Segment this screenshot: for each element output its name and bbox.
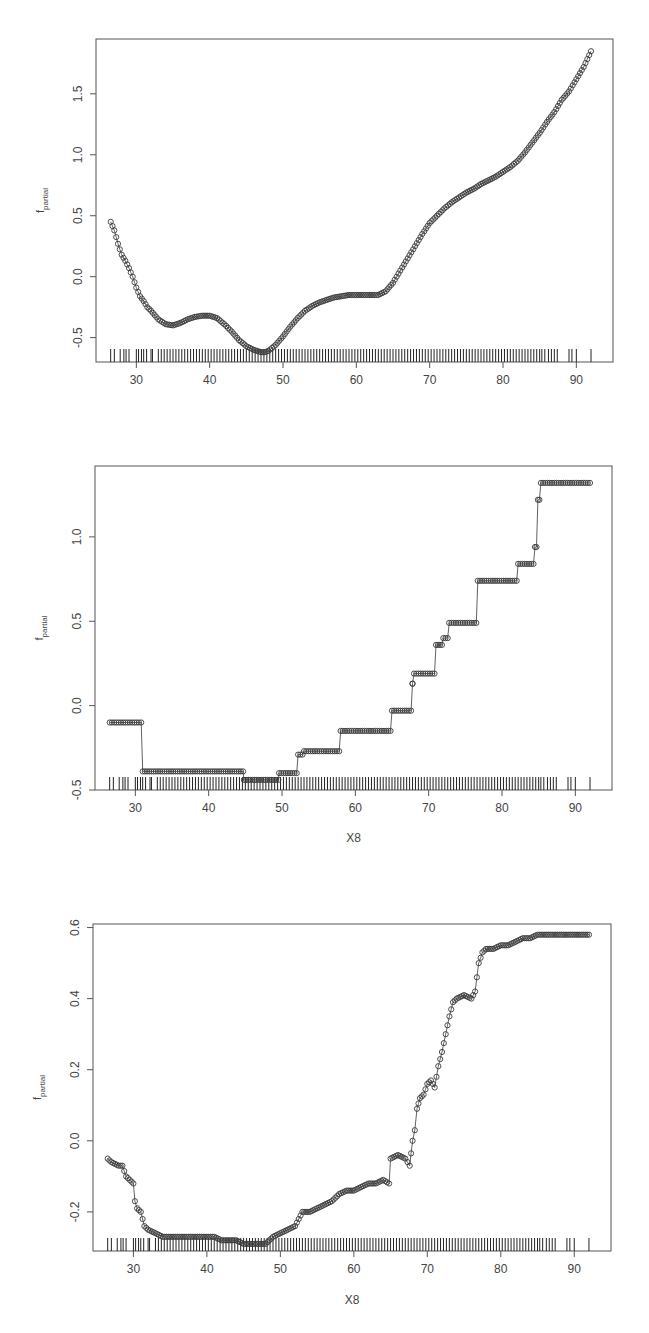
plot-group: 30405060708090-0.20.00.20.40.6fpartialX8 xyxy=(31,919,611,1307)
partial-dependence-plot-bottom: 30405060708090-0.20.00.20.40.6fpartialX8 xyxy=(0,0,649,1333)
series-points xyxy=(105,932,592,1246)
x-tick-label: 60 xyxy=(347,1262,361,1276)
plot-frame xyxy=(93,924,611,1251)
x-tick-label: 30 xyxy=(127,1262,141,1276)
y-tick-label: 0.2 xyxy=(68,1061,82,1078)
figure-stage: 30405060708090-0.50.00.51.01.5fpartial 3… xyxy=(0,0,649,1333)
x-tick-label: 90 xyxy=(568,1262,582,1276)
y-tick-label: 0.4 xyxy=(68,990,82,1007)
x-tick-label: 80 xyxy=(494,1262,508,1276)
y-axis-label: fpartial xyxy=(31,1075,47,1100)
y-tick-label: 0.6 xyxy=(68,919,82,936)
x-tick-label: 40 xyxy=(200,1262,214,1276)
rug-marks xyxy=(108,1238,589,1251)
x-tick-label: 50 xyxy=(274,1262,288,1276)
x-axis-label: X8 xyxy=(345,1293,360,1307)
y-tick-label: 0.0 xyxy=(68,1132,82,1149)
y-axis-label-sub: partial xyxy=(38,1075,47,1097)
x-tick-label: 70 xyxy=(421,1262,435,1276)
series-line xyxy=(108,935,589,1244)
y-tick-label: -0.2 xyxy=(68,1201,82,1222)
